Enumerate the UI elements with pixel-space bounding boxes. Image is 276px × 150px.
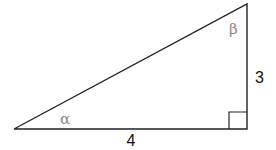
alpha-angle-label: α bbox=[60, 110, 70, 128]
triangle-outline bbox=[14, 4, 247, 129]
right-angle-marker bbox=[229, 112, 247, 129]
right-triangle-diagram: 4 3 α β bbox=[0, 0, 276, 150]
beta-angle-label: β bbox=[229, 20, 238, 38]
height-length-label: 3 bbox=[255, 69, 264, 86]
base-length-label: 4 bbox=[127, 132, 136, 149]
